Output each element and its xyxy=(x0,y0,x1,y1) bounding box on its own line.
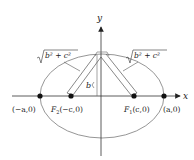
x-axis-label: x xyxy=(183,91,188,101)
right-distance-label: b² + c² xyxy=(126,50,167,63)
left-distance-bar xyxy=(67,54,101,95)
b-bracket xyxy=(92,82,94,88)
left-vertex-point xyxy=(37,93,42,98)
right-vertex-label: (a,0) xyxy=(163,105,181,114)
left-distance-label: b² + c² xyxy=(37,50,78,63)
right-distance-bar xyxy=(101,54,137,95)
svg-text:b² + c²: b² + c² xyxy=(45,51,71,60)
left-vertex-label: (−a,0) xyxy=(12,105,36,114)
right-leader xyxy=(123,62,138,71)
right-vertex-point xyxy=(161,93,166,98)
left-leader xyxy=(64,62,80,71)
focus-2-point xyxy=(68,93,73,98)
svg-text:b² + c²: b² + c² xyxy=(134,51,160,60)
ellipse-diagram: y x b² + c² b² + c² b (−a,0) F2(−c,0) F1… xyxy=(0,0,194,160)
focus-1-point xyxy=(131,93,136,98)
y-axis-label: y xyxy=(96,13,103,23)
semi-minor-label: b xyxy=(86,81,91,90)
focus-1-label: F1(c,0) xyxy=(123,105,150,115)
focus-2-label: F2(−c,0) xyxy=(50,105,83,115)
